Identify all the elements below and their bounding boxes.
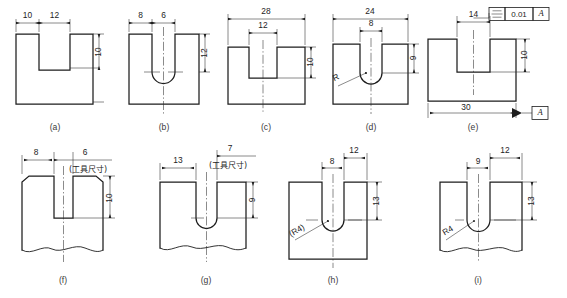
figure-b-extension-lines: [129, 19, 210, 72]
figure-b-profile: [129, 34, 199, 104]
figure-e: 14 10 30 0.01 A A: [428, 8, 549, 133]
figure-c-extension-lines: [228, 14, 316, 78]
figure-d-dim-slot-width: 8: [369, 18, 374, 28]
figure-c-dim-overall-width: 28: [261, 6, 271, 16]
figure-a: 10 12 10 (a): [16, 10, 104, 132]
drawing-sheet: 10 12 10 (a) 8 6 12 (b) 28 12: [0, 0, 567, 298]
figure-h-dim-right-offset: 12: [349, 145, 359, 155]
figure-g: 13 7 (工具尺寸) 9 (g): [160, 143, 258, 285]
figure-i-break-line: [440, 248, 522, 252]
figure-a-dim-depth: 10: [93, 47, 103, 57]
figure-e-label: (e): [468, 122, 479, 132]
figure-h-profile: [289, 182, 367, 259]
figure-e-profile: [428, 39, 516, 101]
figure-i-dim-slot-width: 9: [476, 156, 481, 166]
figure-f-dim-tool-width: 6: [83, 147, 88, 157]
figure-c-label: (c): [261, 122, 271, 132]
figure-c-dim-depth: 10: [305, 57, 315, 67]
figure-g-tool-size-note: (工具尺寸): [209, 160, 247, 170]
figure-g-dim-left-offset: 13: [173, 155, 183, 165]
figure-d-dim-depth: 9: [408, 55, 418, 60]
figure-g-label: (g): [201, 275, 212, 285]
figure-i-label: (i): [474, 275, 482, 285]
figure-a-dim-slot-width: 12: [50, 10, 60, 20]
figure-a-profile: [16, 34, 93, 104]
figure-a-dim-left-offset: 10: [23, 10, 33, 20]
figure-f-dim-depth: 10: [104, 193, 114, 203]
figure-h-dim-slot-width: 8: [330, 156, 335, 166]
figure-f-profile: [22, 176, 103, 250]
figure-f: 8 6 (工具尺寸) 10 (f): [22, 147, 115, 285]
figure-c: 28 12 10 (c): [228, 6, 316, 132]
figure-e-dim-overall-width: 30: [461, 102, 471, 112]
figure-d-dim-overall-width: 24: [365, 6, 375, 16]
figure-h-dim-depth: 13: [371, 196, 381, 206]
figure-i-dim-depth: 13: [526, 196, 536, 206]
datum-label: A: [536, 107, 543, 117]
figure-f-label: (f): [59, 275, 67, 285]
figure-g-profile: [160, 182, 246, 248]
figure-h-dim-radius: (R4): [287, 222, 306, 239]
figure-f-tool-size-note: (工具尺寸): [69, 164, 107, 174]
figure-e-tolerance-frame: 0.01 A: [474, 8, 550, 21]
figure-g-dim-depth: 9: [247, 197, 257, 202]
figure-d: R 24 8 9 (d): [331, 6, 419, 132]
figure-b: 8 6 12 (b): [129, 10, 210, 132]
figure-f-dim-left-offset: 8: [34, 147, 39, 157]
figure-a-extension-lines: [16, 19, 104, 102]
figure-f-break-line: [22, 247, 103, 252]
symmetry-icon: [492, 11, 503, 17]
figure-g-break-line: [160, 246, 246, 250]
figure-c-profile: [228, 47, 305, 104]
figure-h-label: (h): [328, 275, 339, 285]
tolerance-datum: A: [537, 8, 544, 18]
tolerance-value: 0.01: [511, 10, 527, 19]
figure-e-dim-depth: 10: [519, 50, 529, 60]
figure-b-label: (b): [159, 122, 170, 132]
figure-d-profile: [333, 44, 408, 104]
figure-i-profile: [440, 182, 522, 250]
figure-g-dim-tool-width: 7: [228, 143, 233, 153]
figure-b-dim-depth: 12: [199, 48, 209, 58]
datum-triangle-icon: [512, 108, 522, 118]
figure-b-dim-slot-width: 6: [161, 10, 166, 20]
figure-d-dim-radius: R: [331, 71, 341, 83]
figure-d-label: (d): [366, 122, 377, 132]
figure-i: R4 9 12 13 (i): [440, 145, 537, 285]
figure-a-label: (a): [50, 122, 61, 132]
figure-c-dim-slot-width: 12: [258, 20, 268, 30]
figure-e-extension-lines: [428, 16, 530, 118]
figure-i-dim-right-offset: 12: [500, 145, 510, 155]
technical-drawing-canvas: 10 12 10 (a) 8 6 12 (b) 28 12: [0, 0, 567, 298]
figure-e-dim-slot-width: 14: [469, 9, 479, 19]
figure-e-datum-symbol: A: [512, 107, 548, 120]
figure-b-dim-left-offset: 8: [138, 10, 143, 20]
figure-h: (R4) 8 12 13 (h): [287, 145, 382, 285]
figure-f-extension-lines: [22, 152, 115, 218]
